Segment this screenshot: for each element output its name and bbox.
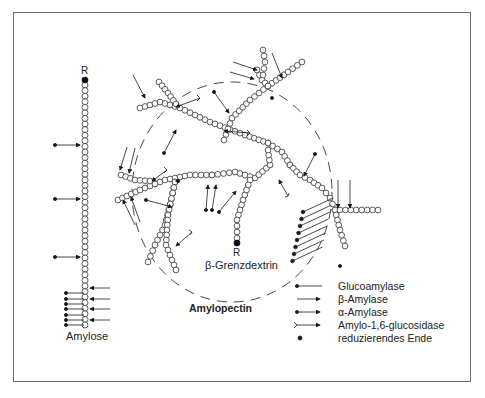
- amylose-chain: [82, 82, 88, 328]
- reducing-end-symbol-icon: [298, 336, 302, 340]
- limit-dextrin-reducing-end-label: R: [233, 247, 240, 258]
- limit-dextrin-reducing-end-icon: [234, 240, 241, 247]
- legend-label: β-Amylase: [338, 293, 388, 305]
- amylopectin-label: Amylopectin: [189, 302, 252, 314]
- amylose-label: Amylose: [66, 330, 108, 342]
- legend-label: reduzierendes Ende: [338, 332, 432, 344]
- legend-label: Amylo-1,6-glucosidase: [338, 319, 444, 331]
- legend-label: α-Amylase: [338, 306, 388, 318]
- amylose-glucoamylase-lines: [64, 291, 84, 326]
- amylose-alpha-amylase-arrows: [53, 143, 80, 258]
- limit-dextrin-label: β-Grenzdextrin: [205, 259, 278, 271]
- amylose-reducing-end-label: R: [81, 65, 88, 76]
- amylopectin-chains: [115, 47, 381, 273]
- reducing-end-icon: [82, 77, 89, 84]
- legend-symbols: [294, 284, 322, 340]
- amylose-beta-amylase-arrows: [90, 288, 110, 320]
- legend-label: Glucoamylase: [338, 280, 405, 292]
